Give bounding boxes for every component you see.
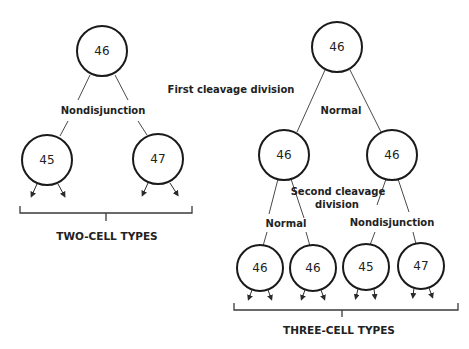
label-second-cleavage: Second cleavage (291, 186, 386, 197)
bracket-two-cell (20, 206, 192, 221)
arrow-icon (143, 183, 148, 194)
cell-right-leaf-4: 47 (398, 243, 444, 289)
label-nondisjunction-left: Nondisjunction (61, 105, 146, 116)
connector-line (350, 70, 381, 132)
chromosome-count: 45 (358, 260, 373, 274)
left-tree: 46 Nondisjunction 45 47 TWO-CELL TYPES (20, 26, 192, 242)
chromosome-count: 46 (94, 44, 109, 58)
arrow-icon (268, 290, 271, 298)
connector-line (78, 75, 90, 100)
chromosome-count: 46 (305, 261, 320, 275)
cell-left-child-2: 47 (133, 134, 183, 184)
label-nondisjunction-right: Nondisjunction (350, 217, 435, 228)
cell-left-child-1: 45 (22, 135, 72, 185)
chromosome-count: 46 (329, 40, 344, 54)
cell-right-leaf-2: 46 (290, 245, 336, 291)
connector-line (413, 232, 416, 244)
connector-line (115, 75, 128, 100)
connector-line (269, 179, 278, 214)
cell-left-root: 46 (77, 26, 127, 76)
label-first-cleavage: First cleavage division (168, 84, 295, 95)
chromosome-count: 46 (384, 148, 399, 162)
arrow-icon (58, 184, 64, 195)
arrow-icon (321, 290, 324, 298)
label-second-cleavage-division: division (315, 199, 359, 210)
cleavage-diagram: 46 Nondisjunction 45 47 TWO-CELL TYPES F… (0, 0, 469, 349)
label-normal-top: Normal (321, 105, 362, 116)
connector-line (263, 232, 267, 246)
chromosome-count: 45 (39, 153, 54, 167)
arrow-icon (170, 183, 177, 194)
cell-right-leaf-1: 46 (237, 245, 283, 291)
bracket-three-cell (234, 303, 458, 317)
caption-two-cell-types: TWO-CELL TYPES (56, 230, 157, 242)
arrow-icon (356, 289, 358, 297)
connector-line (306, 232, 310, 246)
chromosome-count: 46 (252, 261, 267, 275)
cell-right-middle-2: 46 (367, 130, 417, 180)
arrow-icon (249, 290, 252, 298)
arrow-icon (374, 289, 375, 297)
cell-right-leaf-3: 45 (343, 244, 389, 290)
arrow-icon (413, 288, 414, 296)
arrow-icon (32, 184, 37, 195)
connector-line (297, 70, 325, 132)
connector-line (370, 232, 375, 245)
connector-line (138, 121, 147, 135)
cell-right-root: 46 (312, 22, 362, 72)
caption-three-cell-types: THREE-CELL TYPES (283, 324, 395, 336)
arrow-icon (429, 288, 432, 296)
label-normal-second: Normal (266, 218, 307, 229)
chromosome-count: 46 (276, 148, 291, 162)
cell-right-middle-1: 46 (259, 130, 309, 180)
arrow-icon (302, 290, 305, 298)
connector-line (60, 121, 68, 136)
chromosome-count: 47 (413, 259, 428, 273)
right-tree: 46 Normal 46 46 Second cleavage division… (234, 22, 458, 336)
chromosome-count: 47 (150, 152, 165, 166)
connector-line (398, 179, 409, 212)
